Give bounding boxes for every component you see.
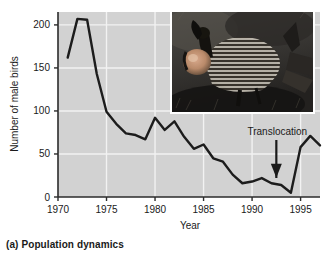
y-tick-label-200: 200 — [33, 19, 50, 30]
y-tick-label-100: 100 — [33, 105, 50, 116]
x-tick-label-1985: 1985 — [192, 204, 215, 215]
x-tick-label-1970: 1970 — [47, 204, 70, 215]
y-tick-label-150: 150 — [33, 62, 50, 73]
y-axis-tick-labels: 050100150200 — [33, 19, 50, 202]
population-dynamics-chart: 050100150200 197019751980198519901995 Nu… — [0, 0, 328, 261]
figure-caption: (a) Population dynamics — [6, 239, 124, 250]
y-tick-label-50: 50 — [39, 148, 51, 159]
x-tick-label-1990: 1990 — [241, 204, 264, 215]
y-tick-label-0: 0 — [44, 192, 50, 203]
x-tick-label-1975: 1975 — [95, 204, 118, 215]
population-dynamics-figure: 050100150200 197019751980198519901995 Nu… — [0, 0, 328, 261]
x-axis-title: Year — [180, 220, 201, 231]
y-axis-title: Number of male birds — [9, 56, 20, 152]
translocation-label: Translocation — [247, 126, 307, 137]
x-tick-label-1980: 1980 — [144, 204, 167, 215]
x-tick-label-1995: 1995 — [289, 204, 312, 215]
figure-panel: 050100150200 197019751980198519901995 Nu… — [0, 0, 328, 261]
greater-prairie-chicken-photo — [162, 6, 315, 124]
x-axis-tick-labels: 197019751980198519901995 — [47, 204, 312, 215]
